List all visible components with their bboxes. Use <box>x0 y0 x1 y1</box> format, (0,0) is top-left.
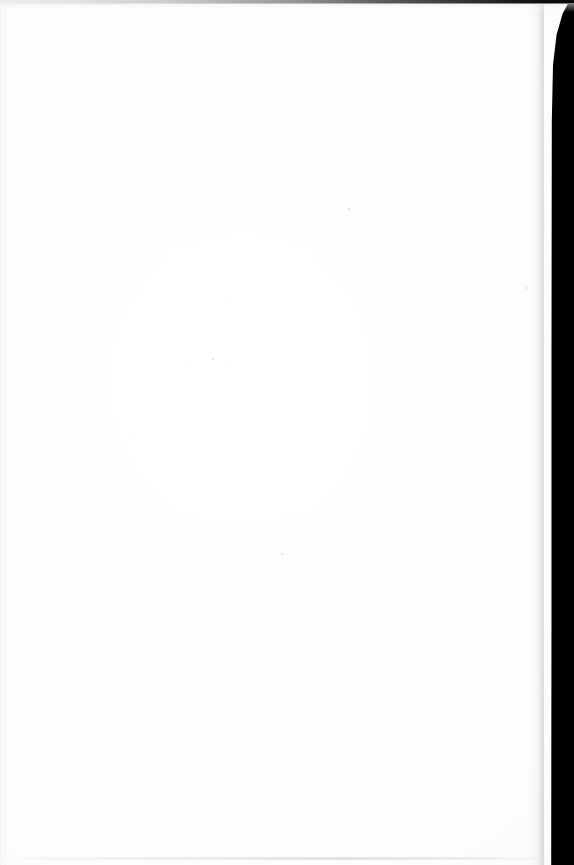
scanned-page-canvas <box>0 0 574 865</box>
page-paper-tone <box>0 0 574 865</box>
page-sheet <box>0 0 574 865</box>
top-scanner-bed-band <box>0 0 574 4</box>
